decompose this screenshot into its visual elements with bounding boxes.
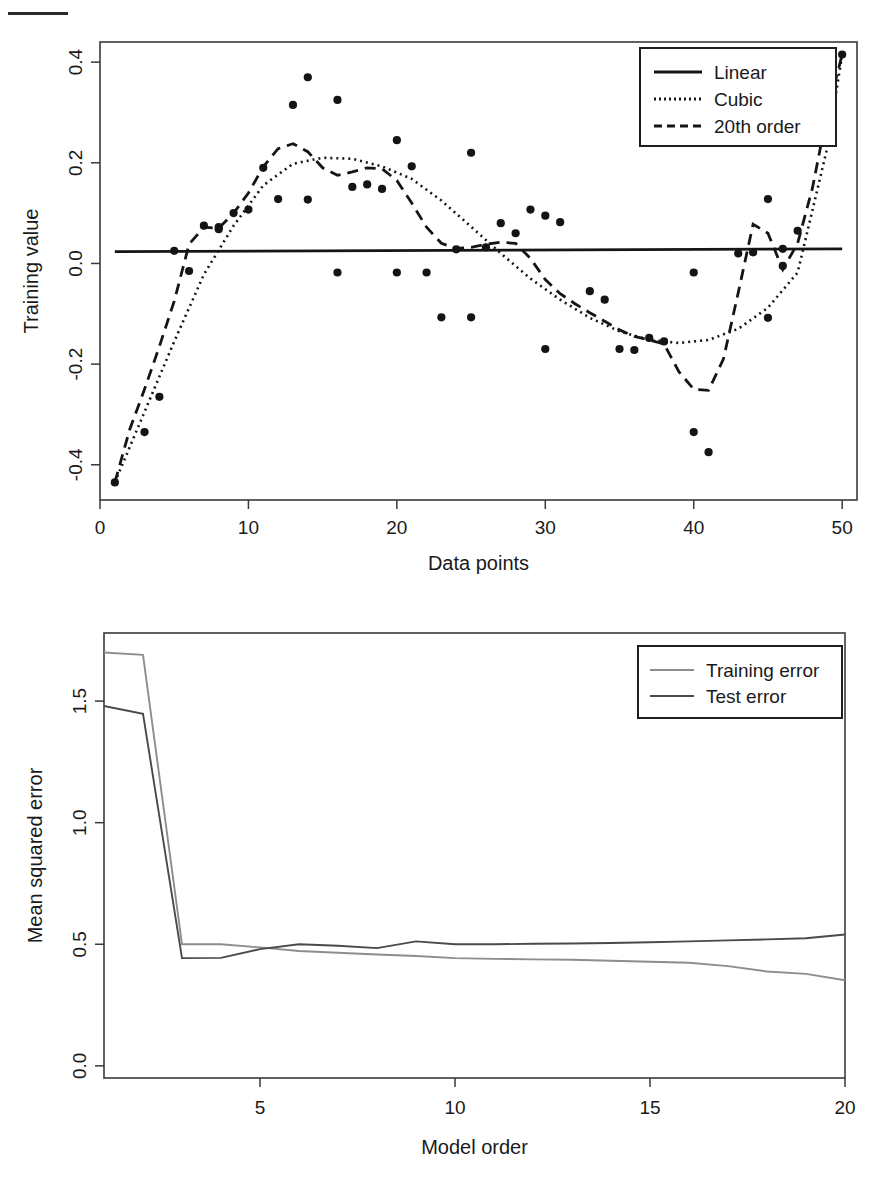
x-tick-label: 20 [386,517,407,538]
data-point [586,287,594,295]
legend-label-0: Training error [706,660,820,681]
x-tick-label: 5 [255,1097,266,1118]
y-tick-label: 0.0 [65,250,86,276]
data-point [259,164,267,172]
y-tick-label: 0.0 [69,1053,90,1079]
data-point [734,249,742,257]
data-point [645,334,653,342]
data-point [111,478,119,486]
data-point [467,313,475,321]
x-tick-label: 15 [639,1097,660,1118]
data-point [170,247,178,255]
data-point [690,428,698,436]
data-point [512,229,520,237]
x-tick-label: 20 [834,1097,855,1118]
x-tick-label: 50 [832,517,853,538]
data-point [749,248,757,256]
data-point [764,195,772,203]
data-point [229,209,237,217]
y-axis-title: Training value [20,209,42,334]
training-value-chart: 01020304050Data points-0.4-0.20.00.20.4T… [0,0,888,600]
data-point [497,219,505,227]
y-tick-label: 1.0 [69,809,90,835]
data-point [660,337,668,345]
x-tick-label: 0 [95,517,106,538]
x-axis-title: Data points [428,552,529,574]
series-linear [115,249,842,252]
data-point [363,180,371,188]
y-tick-label: -0.2 [65,348,86,381]
y-tick-label: 1.5 [69,688,90,714]
x-tick-label: 10 [238,517,259,538]
data-point [704,448,712,456]
series-test-error [104,706,845,958]
data-point [140,428,148,436]
data-point [215,225,223,233]
data-point [779,245,787,253]
data-point [452,245,460,253]
data-point [437,313,445,321]
data-point [838,50,846,58]
figure-training-value-plot: 01020304050Data points-0.4-0.20.00.20.4T… [0,0,888,600]
y-tick-label: -0.4 [65,448,86,481]
data-point [526,206,534,214]
data-point [422,268,430,276]
figure-mse-plot: 5101520Model order0.00.51.01.5Mean squar… [0,600,888,1182]
x-axis-title: Model order [421,1136,528,1158]
data-point [690,268,698,276]
data-point [541,212,549,220]
data-point [348,183,356,191]
y-tick-label: 0.5 [69,931,90,957]
data-point [779,262,787,270]
legend-box [638,646,842,718]
legend-label-1: Test error [706,686,787,707]
data-point [467,149,475,157]
data-point [393,268,401,276]
y-axis-title: Mean squared error [24,767,46,943]
data-point [289,101,297,109]
x-tick-label: 40 [683,517,704,538]
data-point [155,393,163,401]
data-point [393,136,401,144]
y-tick-label: 0.4 [65,48,86,75]
data-point [333,268,341,276]
data-point [200,222,208,230]
mse-chart: 5101520Model order0.00.51.01.5Mean squar… [0,600,888,1182]
data-point [244,206,252,214]
x-tick-label: 30 [535,517,556,538]
data-point [615,345,623,353]
data-point [482,243,490,251]
y-tick-label: 0.2 [65,150,86,176]
x-tick-label: 10 [444,1097,465,1118]
data-point [556,218,564,226]
data-point [304,73,312,81]
data-point [764,314,772,322]
data-point [378,185,386,193]
figure-page: 01020304050Data points-0.4-0.20.00.20.4T… [0,0,888,1182]
legend-label-0: Linear [714,62,767,83]
data-point [274,195,282,203]
data-point [333,96,341,104]
data-point [630,346,638,354]
data-point [541,345,549,353]
data-point [408,162,416,170]
data-point [304,195,312,203]
legend-label-2: 20th order [714,116,801,137]
legend-label-1: Cubic [714,89,763,110]
data-point [185,267,193,275]
data-point [601,296,609,304]
data-point [794,227,802,235]
